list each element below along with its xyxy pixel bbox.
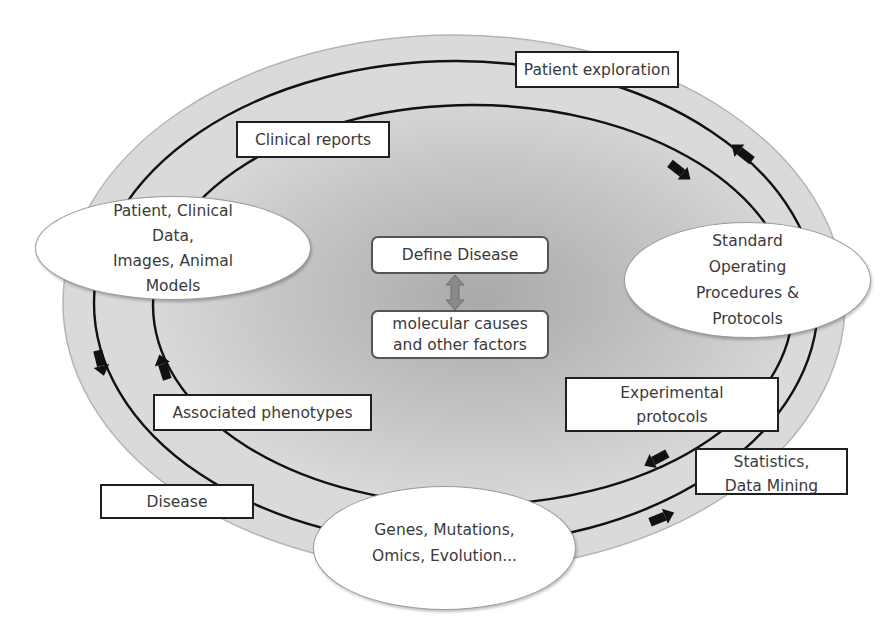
molecular-causes-line-1: molecular causes [392, 314, 527, 335]
genes-node: Genes, Mutations, Omics, Evolution... [313, 486, 576, 610]
disease-label: Disease [147, 492, 208, 512]
clinical-reports-label: Clinical reports [255, 130, 371, 150]
patient-clinical-data-node: Patient, Clinical Data, Images, Animal M… [35, 196, 311, 300]
define-disease-label: Define Disease [402, 245, 519, 265]
sop-line-4: Protocols [712, 306, 783, 332]
associated-phenotypes-box: Associated phenotypes [153, 394, 372, 431]
patient-exploration-label: Patient exploration [524, 60, 671, 80]
patient-clinical-line-4: Models [146, 274, 201, 299]
statistics-box: Statistics, Data Mining [695, 448, 848, 495]
statistics-line-2: Data Mining [725, 474, 818, 495]
define-disease-box: Define Disease [371, 236, 549, 274]
disease-box: Disease [100, 484, 254, 519]
experimental-protocols-line-2: protocols [636, 405, 707, 429]
sop-line-1: Standard [712, 228, 783, 254]
statistics-line-1: Statistics, [734, 450, 810, 474]
experimental-protocols-line-1: Experimental [620, 381, 723, 405]
clinical-reports-box: Clinical reports [236, 121, 390, 158]
associated-phenotypes-label: Associated phenotypes [172, 403, 352, 423]
patient-clinical-line-1: Patient, Clinical [113, 199, 233, 224]
patient-clinical-line-3: Images, Animal [113, 249, 233, 274]
molecular-causes-box: molecular causes and other factors [371, 310, 549, 359]
genes-line-1: Genes, Mutations, [374, 517, 514, 543]
molecular-causes-line-2: and other factors [393, 335, 527, 356]
experimental-protocols-box: Experimental protocols [565, 377, 779, 432]
patient-exploration-box: Patient exploration [515, 51, 679, 88]
workflow-diagram: Patient exploration Clinical reports Pat… [0, 0, 896, 634]
sop-line-2: Operating [709, 254, 787, 280]
sop-node: Standard Operating Procedures & Protocol… [624, 222, 871, 338]
patient-clinical-line-2: Data, [152, 224, 194, 249]
sop-line-3: Procedures & [696, 280, 799, 306]
genes-line-2: Omics, Evolution... [372, 543, 517, 569]
